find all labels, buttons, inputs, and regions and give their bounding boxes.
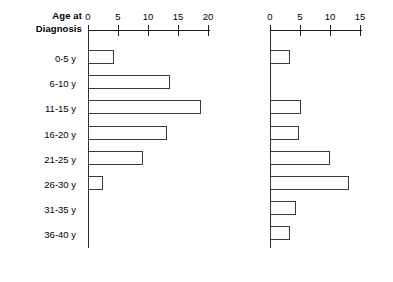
left-tick-label: 15	[173, 11, 184, 22]
right-tick-label: 5	[297, 11, 302, 22]
left-x-axis: 0 5 10 15 20	[88, 24, 210, 36]
bar	[270, 100, 301, 114]
left-bar-group	[88, 46, 210, 248]
left-axis-tick: 15	[178, 25, 179, 36]
category-label: 31-35 y	[2, 197, 82, 222]
right-x-axis: 0 5 10 15	[270, 24, 362, 36]
bar	[88, 50, 114, 64]
bar-row	[270, 122, 362, 147]
bar-row	[88, 96, 210, 121]
bar	[270, 126, 299, 140]
bar	[270, 201, 296, 215]
left-tick-label: 5	[115, 11, 120, 22]
left-bar-chart: 0 5 10 15 20	[88, 24, 210, 272]
bar-row	[88, 71, 210, 96]
bar-row	[270, 197, 362, 222]
category-label: 26-30 y	[2, 172, 82, 197]
axis-title: Age at Diagnosis	[4, 10, 82, 35]
right-axis-tick: 15	[360, 25, 361, 36]
right-bar-chart: 0 5 10 15	[270, 24, 362, 272]
right-tick-label: 10	[325, 11, 336, 22]
category-label: 0-5 y	[2, 46, 82, 71]
bar-row	[88, 222, 210, 247]
bar-row	[88, 122, 210, 147]
bar	[270, 50, 290, 64]
bar-row	[88, 197, 210, 222]
category-label: 16-20 y	[2, 122, 82, 147]
bar-row	[270, 222, 362, 247]
bar-row	[270, 46, 362, 71]
bar-row	[270, 96, 362, 121]
left-tick-label: 0	[85, 11, 90, 22]
category-label-list: 0-5 y 6-10 y 11-15 y 16-20 y 21-25 y 26-…	[2, 46, 82, 248]
bar-row	[270, 147, 362, 172]
right-axis-line	[270, 30, 362, 31]
category-label: 11-15 y	[2, 96, 82, 121]
bar	[270, 176, 349, 190]
bar-row	[270, 172, 362, 197]
bar	[270, 151, 330, 165]
bar	[88, 151, 143, 165]
axis-title-line-2: Diagnosis	[4, 23, 82, 36]
bar-row	[270, 71, 362, 96]
left-axis-tick: 5	[118, 25, 119, 36]
left-axis-tick: 20	[208, 25, 209, 36]
right-tick-label: 0	[267, 11, 272, 22]
right-bar-group	[270, 46, 362, 248]
category-label: 6-10 y	[2, 71, 82, 96]
bar	[88, 100, 201, 114]
bar	[270, 226, 290, 240]
bar-row	[88, 147, 210, 172]
bar-row	[88, 46, 210, 71]
left-tick-label: 10	[143, 11, 154, 22]
category-label: 36-40 y	[2, 222, 82, 247]
bar	[88, 126, 167, 140]
left-tick-label: 20	[203, 11, 214, 22]
bar	[88, 75, 170, 89]
bar	[88, 176, 103, 190]
figure: Age at Diagnosis 0-5 y 6-10 y 11-15 y 16…	[0, 0, 393, 282]
right-tick-label: 15	[355, 11, 366, 22]
right-axis-tick: 10	[330, 25, 331, 36]
bar-row	[88, 172, 210, 197]
axis-title-line-1: Age at	[4, 10, 82, 23]
category-label: 21-25 y	[2, 147, 82, 172]
left-axis-line	[88, 30, 210, 31]
right-axis-tick: 5	[300, 25, 301, 36]
left-axis-tick: 10	[148, 25, 149, 36]
